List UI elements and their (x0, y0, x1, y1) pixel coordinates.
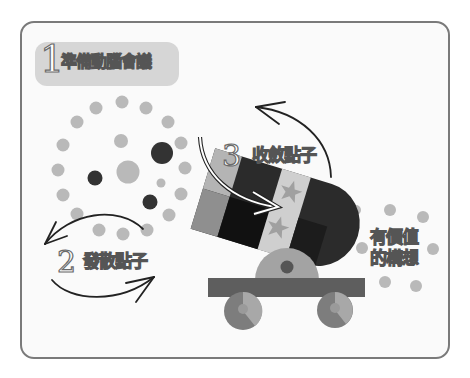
step2-label: 發散點子 (83, 253, 147, 270)
idea-dots (52, 96, 192, 241)
step3-label: 收斂點子 (252, 147, 316, 164)
wheel-left (224, 292, 262, 330)
result-label-line2: 的構想 (370, 250, 418, 267)
wheel-right (317, 292, 353, 328)
step2-number: 2 (57, 247, 76, 277)
result-label-line1: 有價值 (370, 229, 418, 246)
step3-number: 3 (222, 141, 241, 171)
diagram-artwork (0, 0, 470, 378)
